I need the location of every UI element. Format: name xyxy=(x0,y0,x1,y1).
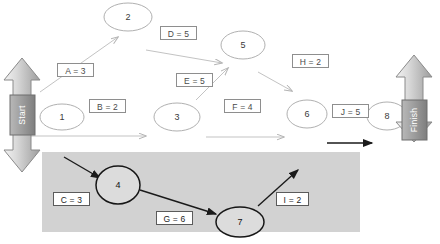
finish-terminal[interactable] xyxy=(396,55,432,142)
node-4[interactable] xyxy=(96,166,140,204)
edge-label-H[interactable]: H = 2 xyxy=(292,54,329,68)
node-3[interactable] xyxy=(154,103,200,131)
edge-label-F[interactable]: F = 4 xyxy=(224,99,261,113)
node-1[interactable] xyxy=(40,104,84,130)
start-badge xyxy=(10,95,35,135)
start-terminal[interactable] xyxy=(4,58,40,172)
node-6[interactable] xyxy=(287,100,327,128)
node-2[interactable] xyxy=(104,3,152,31)
node-5[interactable] xyxy=(221,31,265,59)
edge-label-C[interactable]: C = 3 xyxy=(53,192,90,206)
node-7[interactable] xyxy=(216,207,264,237)
edge-label-E[interactable]: E = 5 xyxy=(176,73,213,87)
edge-arrow-H xyxy=(258,72,292,91)
edge-label-I[interactable]: I = 2 xyxy=(276,192,309,206)
network-diagram-canvas: 1 2 3 4 5 6 7 8 A = 3 B = 2 C = 3 D = 5 … xyxy=(0,0,440,244)
finish-badge xyxy=(402,100,427,140)
edge-label-G[interactable]: G = 6 xyxy=(156,211,193,225)
edge-label-A[interactable]: A = 3 xyxy=(57,63,94,77)
edge-arrow-D xyxy=(146,50,222,63)
diagram-vector-layer xyxy=(0,0,440,244)
edge-label-B[interactable]: B = 2 xyxy=(89,99,126,113)
edge-label-D[interactable]: D = 5 xyxy=(160,26,197,40)
edge-label-J[interactable]: J = 5 xyxy=(332,104,369,118)
